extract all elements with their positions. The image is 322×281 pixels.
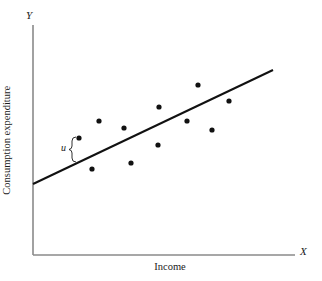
plot-canvas (0, 0, 322, 281)
data-point (96, 118, 101, 123)
data-point (209, 127, 214, 132)
error-term-label: u (61, 143, 66, 153)
data-point (156, 104, 161, 109)
error-brace-icon (69, 137, 76, 162)
data-point (128, 160, 133, 165)
data-point (155, 142, 160, 147)
y-axis-symbol: Y (26, 10, 32, 21)
data-point (195, 82, 200, 87)
data-point (184, 118, 189, 123)
x-axis-symbol: X (300, 246, 307, 257)
y-axis-title-text: Consumption expenditure (2, 75, 13, 205)
regression-line (33, 70, 273, 184)
x-axis-title: Income (120, 262, 220, 273)
data-point (76, 135, 81, 140)
data-point (89, 166, 94, 171)
data-point (121, 125, 126, 130)
y-axis-title: Consumption expenditure (0, 76, 14, 206)
scatter-plot-figure: Y X Consumption expenditure Income u (0, 0, 322, 281)
data-point (226, 98, 231, 103)
